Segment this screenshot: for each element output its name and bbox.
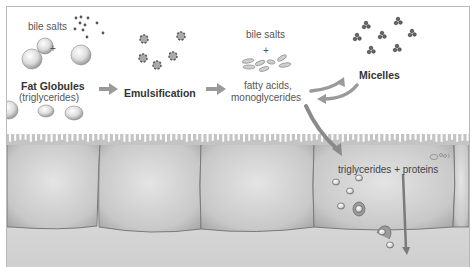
arrow-emulsification-to-fatty-acids — [206, 83, 226, 95]
micelle-exchange-arrows — [311, 81, 357, 99]
label-triglycerides-proteins: triglycerides + proteins — [338, 164, 438, 176]
arrow-fat-to-emulsification — [99, 83, 118, 95]
emulsified-droplets — [139, 32, 185, 69]
fat-globules — [7, 38, 91, 120]
micelles — [353, 17, 416, 54]
diagram-frame: bile salts + Fat Globules (triglycerides… — [6, 6, 470, 267]
label-triglycerides-paren: (triglycerides) — [19, 92, 79, 104]
label-monoglycerides: monoglycerides — [231, 92, 301, 104]
label-fatty-acids: fatty acids, — [244, 80, 292, 92]
label-bile-salts-1: bile salts — [28, 21, 67, 33]
intestinal-absorption-illustration — [7, 7, 469, 267]
lamina-propria — [7, 226, 469, 267]
arrowhead-from-micelles — [317, 94, 326, 104]
label-fat-globules: Fat Globules — [21, 80, 85, 92]
label-emulsification: Emulsification — [124, 87, 196, 99]
bile-salt-dots — [74, 16, 105, 39]
epithelial-cells — [7, 143, 469, 232]
label-bile-salts-2: bile salts — [246, 29, 285, 41]
label-plus-2: + — [263, 45, 269, 57]
label-plus-1: + — [50, 43, 56, 55]
label-micelles: Micelles — [359, 69, 400, 81]
